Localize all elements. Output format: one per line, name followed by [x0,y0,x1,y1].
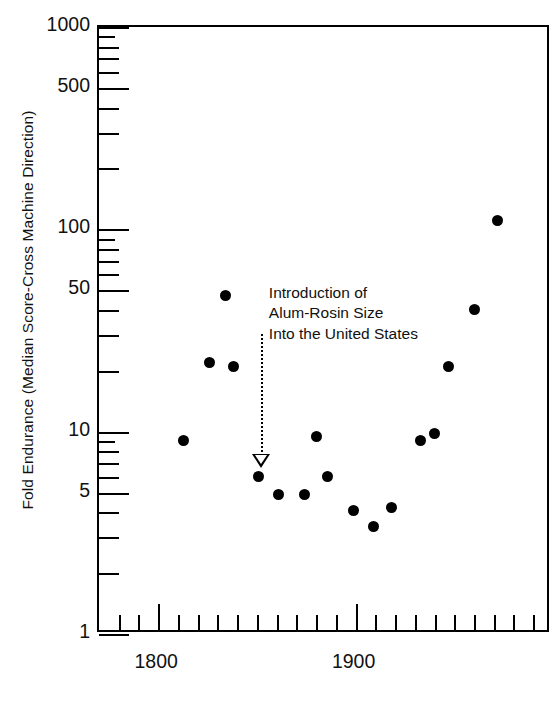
x-axis-minor-tick [138,615,140,630]
y-axis-tick-label: 1000 [12,15,90,35]
y-axis-minor-tick [99,47,119,49]
x-axis-minor-tick [237,615,239,630]
x-axis-minor-tick [454,615,456,630]
y-axis-minor-tick [99,168,119,170]
data-point [322,471,333,482]
x-axis-tick-label: 1900 [309,652,399,672]
x-axis-minor-tick [296,615,298,630]
x-axis-minor-tick [474,615,476,630]
data-point [368,521,379,532]
y-axis-minor-tick [99,573,119,575]
y-axis-minor-tick [99,512,119,514]
y-axis-minor-tick [99,441,115,443]
y-axis-minor-tick [99,133,119,135]
y-axis-tick-label: 100 [12,217,90,237]
y-axis-tick-label: 1 [12,622,90,642]
y-axis-minor-tick [99,249,119,251]
y-axis-minor-tick [99,261,119,263]
x-axis-minor-tick [316,615,318,630]
y-axis-major-tick [99,493,129,495]
y-axis-major-tick [99,27,129,29]
y-axis-minor-tick [99,335,119,337]
data-point [204,357,215,368]
y-axis-tick-label: 5 [12,481,90,501]
x-axis-minor-tick [336,615,338,630]
x-axis-minor-tick [119,615,121,630]
x-axis-minor-tick [198,615,200,630]
y-axis-major-tick [99,432,129,434]
y-axis-minor-tick [99,108,119,110]
x-axis-major-tick [356,604,358,630]
y-axis-minor-tick [99,537,119,539]
y-axis-minor-tick [99,72,119,74]
x-axis-minor-tick [178,615,180,630]
x-axis-minor-tick [415,615,417,630]
data-point [273,489,284,500]
x-axis-tick-label: 1800 [111,652,201,672]
x-axis-minor-tick [217,615,219,630]
data-point [253,471,264,482]
data-point [386,502,397,513]
y-axis-minor-tick [99,310,119,312]
data-point [228,361,239,372]
y-axis-minor-tick [99,463,119,465]
data-point [299,489,310,500]
plot-area: Introduction of Alum-Rosin Size Into the… [97,25,549,632]
y-axis-major-tick [99,634,129,636]
x-axis-minor-tick [395,615,397,630]
y-axis-minor-tick [99,371,119,373]
x-axis-major-tick [158,604,160,630]
data-point [492,215,503,226]
x-axis-minor-tick [375,615,377,630]
y-axis-minor-tick [99,477,119,479]
y-axis-tick-label: 500 [12,76,90,96]
x-axis-minor-tick [494,615,496,630]
y-axis-minor-tick [99,274,119,276]
y-axis-minor-tick [99,58,119,60]
x-axis-minor-tick [533,615,535,630]
y-axis-minor-tick [99,451,119,453]
data-point [220,290,231,301]
data-point [415,435,426,446]
y-axis-major-tick [99,88,129,90]
data-point [469,304,480,315]
data-point [311,431,322,442]
y-axis-tick-label: 50 [12,278,90,298]
annotation-triangle-marker [252,454,270,468]
annotation-connector-line [261,334,263,452]
y-axis-major-tick [99,290,129,292]
y-axis-tick-label: 10 [12,420,90,440]
chart-figure: Fold Endurance (Median Score-Cross Machi… [0,0,560,703]
x-axis-minor-tick [257,615,259,630]
y-axis-major-tick [99,229,129,231]
y-axis-minor-tick [99,36,115,38]
data-point [429,428,440,439]
data-point [443,361,454,372]
y-axis-minor-tick [99,239,115,241]
annotation-text: Introduction of Alum-Rosin Size Into the… [269,283,418,345]
x-axis-minor-tick [513,615,515,630]
data-point [348,505,359,516]
x-axis-minor-tick [435,615,437,630]
data-point [178,435,189,446]
x-axis-minor-tick [277,615,279,630]
